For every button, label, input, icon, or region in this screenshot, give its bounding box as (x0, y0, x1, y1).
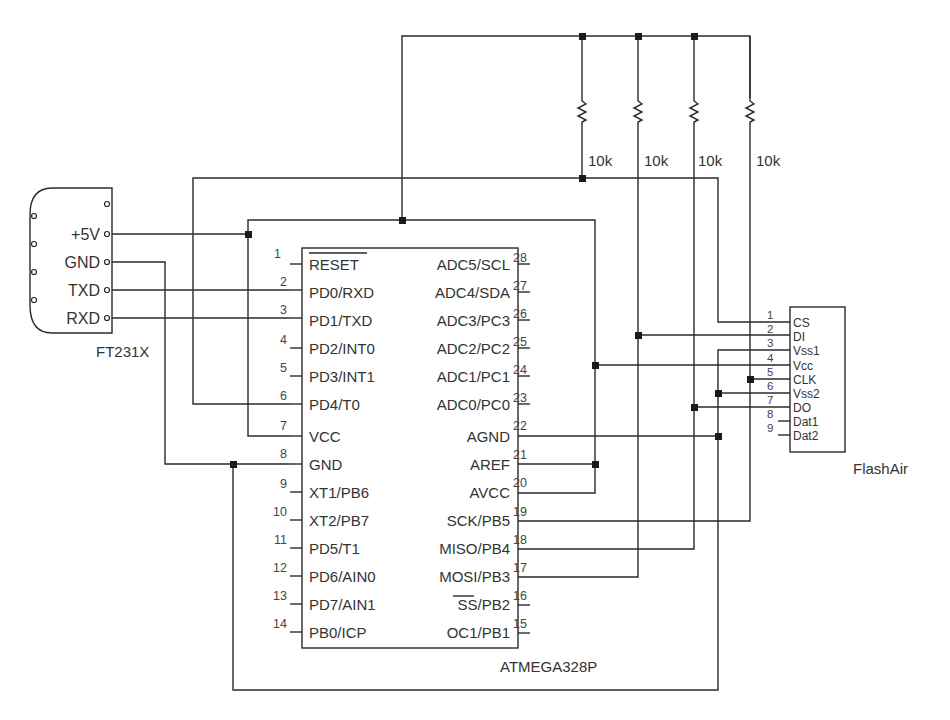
junction-dot (691, 404, 698, 411)
ft231x-pin-rxd (105, 316, 110, 321)
ft231x-pin (105, 202, 110, 207)
flashair-pin-number: 7 (767, 394, 773, 406)
ft231x-label-rxd: RXD (66, 310, 100, 327)
ft-gnd-wire (112, 262, 290, 464)
pin-label: ADC0/PC0 (437, 396, 510, 413)
pin-label: XT2/PB7 (309, 512, 369, 529)
resistor-r2-value: 10k (644, 152, 669, 169)
junction-dot (691, 33, 698, 40)
pin-number: 6 (280, 389, 287, 403)
ft231x-label-gnd: GND (64, 254, 100, 271)
miso-do-wire (518, 124, 694, 549)
pin-number: 14 (273, 617, 287, 631)
flashair-pin-number: 1 (767, 309, 773, 321)
pin-number: 7 (280, 419, 287, 433)
pin-label: MISO/PB4 (439, 540, 510, 557)
ft231x-label-txd: TXD (68, 282, 100, 299)
junction-dot (399, 217, 406, 224)
pin-number: 3 (280, 303, 287, 317)
pin-label: ADC4/SDA (435, 284, 510, 301)
pin-label: MOSI/PB3 (439, 568, 510, 585)
pin-number: 5 (280, 361, 287, 375)
wires (112, 36, 790, 690)
junction-dot (635, 33, 642, 40)
pin-number: 25 (513, 335, 527, 349)
pin-number: 20 (513, 476, 527, 490)
resistor-r2: 10k (634, 98, 669, 169)
resistor-r4: 10k (746, 92, 781, 169)
junction-dot (592, 461, 599, 468)
pin-number: 4 (280, 333, 287, 347)
pin-number: 16 (513, 589, 527, 603)
atmega-body (302, 248, 518, 648)
ft231x-edge-pin (32, 270, 37, 275)
ft231x-edge-pin (32, 242, 37, 247)
pin-number: 2 (280, 275, 287, 289)
pin-label: ADC5/SCL (437, 256, 510, 273)
pin-label: OC1/PB1 (447, 624, 510, 641)
pin-number: 24 (513, 363, 527, 377)
flashair-pin-label: DO (793, 401, 811, 415)
resistor-r3-value: 10k (698, 152, 723, 169)
mosi-di-wire (518, 124, 638, 577)
junction-dot (635, 332, 642, 339)
flashair-pin-label: Dat1 (793, 415, 819, 429)
pin-label: ADC2/PC2 (437, 340, 510, 357)
pin-label-ss: SS/PB2 (457, 596, 510, 613)
ft231x-pin-5v (105, 232, 110, 237)
flashair-pin-label: Vss2 (793, 387, 820, 401)
flashair-pin-label: CLK (793, 373, 816, 387)
pin-label: PB0/ICP (309, 624, 367, 641)
circuit-schematic: 10k 10k 10k 10k (0, 0, 950, 720)
pin-number: 17 (513, 561, 527, 575)
pin-label: PD0/RXD (309, 284, 374, 301)
pin-label: AREF (470, 456, 510, 473)
junction-dot (592, 362, 599, 369)
pin-label: ADC3/PC3 (437, 312, 510, 329)
pin-number: 23 (513, 391, 527, 405)
pin-label: GND (309, 456, 343, 473)
pin-number: 12 (273, 561, 287, 575)
pin-label: PD7/AIN1 (309, 596, 376, 613)
junction-dot (230, 461, 237, 468)
pin-label: AVCC (469, 484, 510, 501)
ft231x-module: +5V GND TXD RXD FT231X (30, 188, 149, 360)
flashair-pin-label: CS (793, 316, 810, 330)
resistor-r4-value: 10k (756, 152, 781, 169)
flashair-name: FlashAir (853, 460, 908, 477)
pin-label: AGND (467, 428, 511, 445)
flashair-pin-number: 4 (767, 352, 774, 364)
pin-number: 26 (513, 307, 527, 321)
pin-number: 1 (274, 247, 281, 261)
resistor-r1: 10k (578, 98, 613, 169)
flashair-card: CS 1 DI 2 Vss1 3 Vcc 4 CLK 5 Vss2 6 DO 7… (767, 307, 908, 477)
pin-number: 22 (513, 419, 527, 433)
ft231x-name: FT231X (96, 343, 149, 360)
ft231x-edge-pin (32, 298, 37, 303)
pin-label: PD4/T0 (309, 396, 360, 413)
pin-number: 28 (513, 251, 527, 265)
flashair-pin-label: DI (793, 330, 805, 344)
junction-dot (747, 376, 754, 383)
flashair-pin-label: Vcc (793, 359, 813, 373)
pin-label: PD1/TXD (309, 312, 373, 329)
pin-label: PD6/AIN0 (309, 568, 376, 585)
atmega328p-chip: 1 RESET 2 PD0/RXD 3 PD1/TXD 4 PD2/INT0 5… (273, 247, 597, 675)
atmega-left-pins: 1 RESET 2 PD0/RXD 3 PD1/TXD 4 PD2/INT0 5… (273, 247, 376, 641)
pin-number: 11 (274, 533, 287, 547)
pullup-rail-wire (402, 36, 750, 220)
pin-label: VCC (309, 428, 341, 445)
ft231x-pin-txd (105, 288, 110, 293)
pin-number: 18 (513, 533, 527, 547)
junction-dot (245, 231, 252, 238)
flashair-pin-number: 8 (767, 408, 773, 420)
atmega-name: ATMEGA328P (500, 658, 597, 675)
pin-label: PD3/INT1 (309, 368, 375, 385)
flashair-pin-number: 5 (767, 366, 773, 378)
flashair-pin-label: Vss1 (793, 344, 820, 358)
pin-label: PD2/INT0 (309, 340, 375, 357)
pin-number: 19 (513, 505, 527, 519)
ft231x-label-5v: +5V (71, 226, 100, 243)
junction-dot (579, 33, 586, 40)
flashair-pin-number: 3 (767, 337, 773, 349)
